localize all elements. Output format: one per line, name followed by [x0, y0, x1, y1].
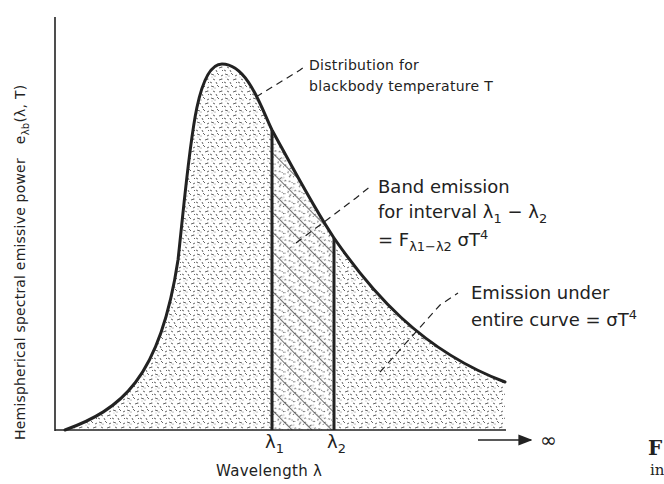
caption-fragment-line1: F	[648, 438, 662, 458]
distribution-label-line2: blackbody temperature T	[309, 79, 493, 93]
band-label-line2: for interval λ1 − λ2	[378, 203, 547, 225]
y-axis-symbol-args: (λ, T)	[12, 85, 28, 123]
band-hatch	[272, 60, 334, 430]
total-label-line1: Emission under	[471, 284, 610, 302]
distribution-leader	[256, 67, 304, 97]
y-axis-label: Hemispherical spectral emissive power eλ…	[12, 85, 31, 440]
x-tick-lambda1: λ1	[265, 433, 284, 455]
distribution-label-line1: Distribution for	[309, 58, 419, 72]
y-axis-symbol-sub: λb	[20, 123, 31, 136]
x-axis-label: Wavelength λ	[216, 464, 322, 479]
band-label-line1: Band emission	[378, 178, 510, 196]
total-label-line2: entire curve = σT4	[471, 309, 637, 329]
x-tick-lambda2: λ2	[327, 433, 346, 455]
infinity-symbol: ∞	[540, 430, 557, 450]
y-axis-symbol: e	[12, 135, 28, 144]
caption-fragment-line2: in	[650, 463, 664, 478]
band-label-line3: = Fλ1−λ2 σT4	[378, 229, 488, 254]
